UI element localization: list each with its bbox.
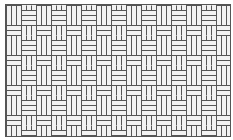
basketweave-svg [6, 5, 230, 136]
tile-fill [6, 5, 230, 136]
tile-pattern [5, 4, 231, 137]
